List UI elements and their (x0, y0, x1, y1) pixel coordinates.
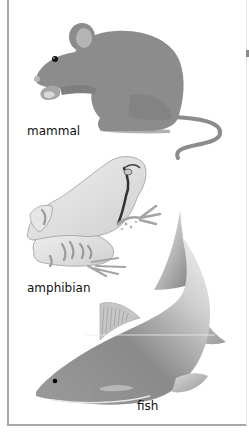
animal-illustrations (0, 0, 249, 436)
label-fish: fish (137, 399, 158, 413)
label-amphibian: amphibian (27, 281, 91, 295)
label-mammal: mammal (27, 124, 80, 138)
frog-illustration (27, 157, 160, 276)
